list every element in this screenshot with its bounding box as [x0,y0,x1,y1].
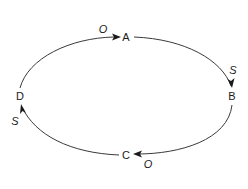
edge-c-to-d [22,107,119,155]
edge-d-to-a [20,37,114,88]
node-d: D [16,90,24,102]
node-b: B [228,90,235,102]
edge-label-c-d: S [11,115,19,127]
node-a: A [122,31,130,43]
edge-b-to-c [137,105,232,154]
cycle-diagram: A B C D O S O S [0,0,248,189]
edge-label-d-a: O [99,23,108,35]
edge-a-to-b [134,37,231,86]
edge-label-a-b: S [229,64,237,76]
node-c: C [122,149,130,161]
edge-label-b-c: O [144,158,153,170]
